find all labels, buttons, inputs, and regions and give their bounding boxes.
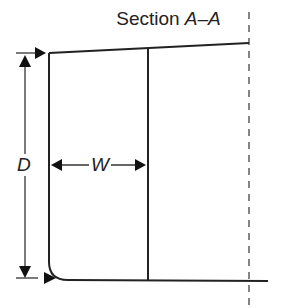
section-id: A–A bbox=[185, 8, 221, 29]
arrow-right-icon bbox=[35, 47, 46, 59]
arrow-right-icon bbox=[44, 272, 56, 284]
width-label: W bbox=[89, 155, 111, 175]
title-prefix: Section bbox=[116, 8, 179, 29]
arrow-down-icon bbox=[19, 266, 31, 278]
arrow-right-icon bbox=[135, 159, 146, 171]
arrow-up-icon bbox=[19, 55, 31, 67]
hull-outline bbox=[49, 53, 268, 281]
section-diagram bbox=[0, 0, 285, 308]
depth-label: D bbox=[17, 154, 31, 176]
section-title: Section A–A bbox=[0, 8, 285, 30]
arrow-left-icon bbox=[51, 159, 62, 171]
